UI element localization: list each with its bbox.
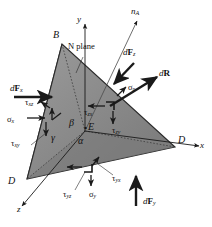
stress-label-tau-zx: τzx bbox=[84, 108, 92, 118]
vertex-label-C: D bbox=[8, 176, 15, 186]
stress-tetrahedron-figure: y x z nA B D D E • N plane β α γ dFx dFy… bbox=[0, 0, 212, 227]
tau-xz-sub: xz bbox=[28, 101, 33, 107]
tau-zy-sub: zy bbox=[115, 129, 120, 135]
arrow-dFz bbox=[114, 63, 134, 84]
n-plane-label: N plane bbox=[68, 42, 95, 51]
axis-label-z: z bbox=[17, 205, 21, 214]
force-label-dFz: dFz bbox=[123, 48, 135, 57]
force-label-dFx: dFx bbox=[10, 84, 23, 93]
force-label-dFy: dFy bbox=[143, 197, 156, 206]
force-dFy-sub: y bbox=[153, 200, 156, 206]
tau-yx-sub: yx bbox=[115, 177, 120, 183]
force-dFz-sub: z bbox=[133, 51, 135, 57]
stress-label-sigma-n: σn bbox=[128, 83, 135, 93]
arrow-sigma-n bbox=[117, 87, 126, 96]
sigma-y-sub: y bbox=[94, 193, 97, 199]
stress-label-tau-yz: τyz bbox=[63, 190, 71, 200]
point-marker-E: • bbox=[84, 124, 87, 133]
stress-label-sigma-y: σy bbox=[89, 190, 96, 200]
stress-label-sigma-x: σx bbox=[7, 115, 14, 125]
tau-zx-sub: zx bbox=[87, 111, 92, 117]
stress-label-tau-xz: τxz bbox=[25, 98, 33, 108]
tau-xy-sub: xy bbox=[14, 142, 19, 148]
angle-label-gamma: γ bbox=[51, 133, 55, 143]
stress-label-tau-yx: τyx bbox=[112, 174, 121, 184]
force-dR-bold: R bbox=[164, 68, 171, 78]
force-label-dR: dR bbox=[159, 69, 170, 78]
axis-label-n-sub: A bbox=[136, 10, 140, 16]
sigma-x-sub: x bbox=[12, 118, 15, 124]
axis-label-y: y bbox=[77, 15, 81, 24]
vertex-label-D: D bbox=[178, 135, 185, 145]
diagram-canvas bbox=[0, 0, 212, 227]
force-dFx-sub: x bbox=[20, 87, 23, 93]
axis-label-n: nA bbox=[131, 7, 139, 16]
stress-label-tau-xy: τxy bbox=[11, 139, 20, 149]
angle-label-beta: β bbox=[69, 118, 74, 128]
tau-yz-sub: yz bbox=[66, 193, 71, 199]
vertex-label-E: E bbox=[88, 122, 94, 132]
axis-label-x: x bbox=[200, 141, 204, 150]
stress-label-tau-zy: τzy bbox=[112, 126, 120, 136]
vertex-label-B: B bbox=[53, 30, 59, 40]
sigma-n-sub: n bbox=[133, 86, 136, 92]
angle-label-alpha: α bbox=[78, 136, 83, 146]
